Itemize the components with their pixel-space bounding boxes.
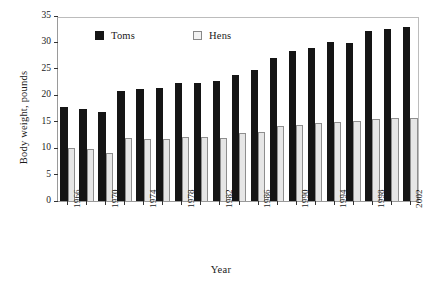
bar-toms-1972 (117, 91, 124, 201)
bar-toms-2000 (384, 29, 391, 201)
bar-toms-1992 (308, 48, 315, 201)
x-tick-label: 1966 (72, 189, 82, 208)
y-tick-mark (54, 95, 58, 96)
bar-toms-1990 (289, 51, 296, 201)
y-tick-mark (54, 121, 58, 122)
x-tick-mark (67, 201, 68, 205)
x-tick-mark (353, 201, 354, 205)
y-tick-mark (54, 16, 58, 17)
y-tick-label: 10 (42, 141, 52, 154)
y-tick-label: 35 (42, 9, 52, 22)
bar-toms-1968 (79, 109, 86, 202)
x-tick-mark (124, 201, 125, 205)
bar-toms-1994 (327, 42, 334, 201)
x-tick-mark (86, 201, 87, 205)
x-tick-label: 1974 (148, 189, 158, 208)
x-tick-mark (372, 201, 373, 205)
y-tick-mark (54, 42, 58, 43)
legend-label-hens: Hens (209, 30, 231, 41)
bar-hens-1972 (125, 138, 132, 201)
x-tick-mark (315, 201, 316, 205)
x-tick-mark (181, 201, 182, 205)
x-tick-label: 2002 (414, 189, 424, 208)
x-tick-label: 1978 (186, 189, 196, 208)
bar-hens-1988 (277, 126, 284, 201)
bar-toms-1978 (175, 83, 182, 201)
bar-toms-1998 (365, 31, 372, 201)
x-axis-title: Year (0, 264, 442, 275)
bar-hens-1976 (163, 139, 170, 201)
plot-inner: 0510152025303519661970197419781982198619… (58, 18, 418, 201)
bar-toms-1996 (346, 43, 353, 201)
bar-hens-2000 (391, 118, 398, 201)
x-tick-label: 1998 (376, 189, 386, 208)
y-tick-label: 20 (42, 88, 52, 101)
x-tick-label: 1982 (224, 189, 234, 208)
legend-swatch-hens-icon (193, 31, 202, 40)
bar-hens-1984 (239, 133, 246, 201)
turkey-body-weight-chart: Body weight, pounds 05101520253035196619… (0, 0, 442, 287)
bar-hens-1980 (201, 137, 208, 201)
x-tick-label: 1986 (262, 189, 272, 208)
y-tick-label: 25 (42, 62, 52, 75)
y-tick-label: 30 (42, 35, 52, 48)
y-tick-mark (54, 68, 58, 69)
x-tick-mark (391, 201, 392, 205)
x-tick-label: 1994 (338, 189, 348, 208)
x-tick-mark (200, 201, 201, 205)
x-tick-mark (334, 201, 335, 205)
bar-hens-1992 (315, 123, 322, 201)
bar-toms-1970 (98, 112, 105, 201)
bar-toms-1966 (60, 107, 67, 201)
x-tick-label: 1990 (300, 189, 310, 208)
bar-hens-1996 (353, 121, 360, 201)
x-tick-label: 1970 (110, 189, 120, 208)
y-axis-title: Body weight, pounds (18, 43, 29, 193)
legend-swatch-toms-icon (95, 31, 104, 40)
x-tick-mark (219, 201, 220, 205)
bar-toms-1974 (136, 89, 143, 201)
bar-toms-1986 (251, 70, 258, 201)
bar-toms-1982 (213, 81, 220, 202)
legend-item-toms: Toms (95, 30, 135, 41)
y-tick-label: 15 (42, 115, 52, 128)
x-tick-mark (239, 201, 240, 205)
y-tick-label: 5 (46, 168, 51, 181)
bar-toms-1980 (194, 83, 201, 201)
bar-toms-2002 (403, 27, 410, 201)
x-tick-mark (410, 201, 411, 205)
x-tick-mark (296, 201, 297, 205)
legend-item-hens: Hens (193, 30, 231, 41)
bar-toms-1984 (232, 75, 239, 201)
x-tick-mark (143, 201, 144, 205)
x-tick-mark (258, 201, 259, 205)
plot-area: 0510152025303519661970197419781982198619… (57, 17, 419, 202)
x-tick-mark (105, 201, 106, 205)
y-tick-mark (54, 174, 58, 175)
x-tick-mark (277, 201, 278, 205)
bar-toms-1988 (270, 58, 277, 201)
y-tick-mark (54, 148, 58, 149)
legend-label-toms: Toms (111, 30, 135, 41)
x-tick-mark (162, 201, 163, 205)
bar-toms-1976 (156, 88, 163, 201)
y-tick-label: 0 (46, 194, 51, 207)
chart-legend: Toms Hens (95, 30, 231, 41)
bar-hens-1968 (87, 149, 94, 201)
y-tick-mark (54, 201, 58, 202)
